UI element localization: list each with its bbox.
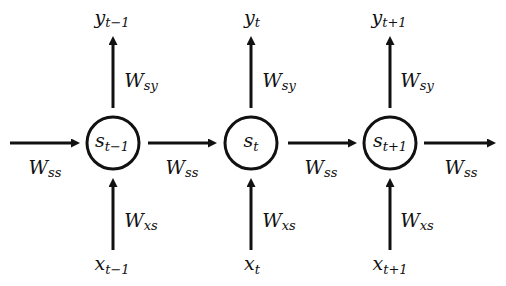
weight-label-xs-1: Wxs [124, 209, 158, 233]
weight-label-xs-3: Wxs [400, 209, 434, 233]
weight-label-xs-2: Wxs [262, 209, 296, 233]
weight-label-ss-2: Wss [166, 156, 199, 180]
weight-label-ss-4: Wss [445, 156, 478, 180]
input-label-2: xt [244, 252, 261, 277]
rnn-diagram: st−1 st st+1 yt−1 yt yt+1 Wsy Wsy Wsy Ws… [0, 0, 506, 286]
weight-label-ss-3: Wss [305, 156, 338, 180]
weight-label-sy-2: Wsy [262, 69, 296, 93]
weight-label-sy-3: Wsy [400, 69, 434, 93]
weight-label-ss-1: Wss [29, 156, 62, 180]
output-label-2: yt [243, 6, 261, 30]
input-label-1: xt−1 [94, 252, 129, 277]
output-label-3: yt+1 [370, 6, 406, 30]
input-label-3: xt+1 [372, 252, 407, 277]
weight-label-sy-1: Wsy [124, 69, 158, 93]
output-label-1: yt−1 [93, 6, 129, 30]
